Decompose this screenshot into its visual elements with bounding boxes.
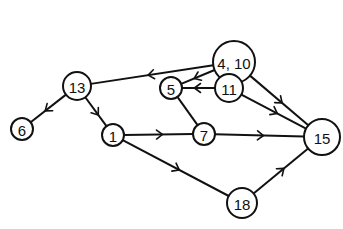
node-n7: 7 — [193, 123, 215, 145]
edge-n18-to-n15 — [254, 148, 309, 193]
edge-line — [91, 65, 213, 84]
edge-n1-to-n18 — [123, 140, 229, 196]
edge-n4_10-to-n15 — [250, 76, 308, 126]
edge-n4_10-to-n13 — [91, 65, 213, 84]
node-n18: 18 — [227, 188, 257, 218]
edge-line — [31, 95, 66, 123]
node-label: 5 — [167, 81, 175, 98]
node-label: 13 — [69, 79, 86, 96]
edge-n1-to-n7 — [124, 130, 193, 139]
edge-line — [241, 95, 306, 129]
node-n5: 5 — [160, 77, 182, 99]
node-label: 4, 10 — [217, 55, 250, 72]
node-n15: 15 — [304, 119, 340, 155]
edge-n13-to-n1 — [85, 97, 106, 126]
edge-n11-to-n5 — [182, 84, 215, 93]
edge-line — [215, 134, 304, 136]
edge-line — [123, 140, 229, 196]
node-label: 7 — [200, 127, 208, 144]
node-label: 1 — [109, 128, 117, 145]
edge-line — [250, 76, 308, 126]
edge-line — [177, 97, 197, 125]
node-n1: 1 — [102, 124, 124, 146]
edge-line — [124, 134, 193, 135]
edge-line — [85, 97, 106, 126]
edge-n7-to-n15 — [215, 131, 304, 140]
node-label: 15 — [314, 130, 331, 147]
edge-n5-to-n7 — [177, 97, 197, 125]
node-label: 11 — [221, 81, 237, 98]
edge-line — [254, 148, 309, 193]
node-label: 6 — [18, 122, 26, 139]
graph-canvas: 4, 10135116171518 — [0, 0, 343, 229]
node-n6: 6 — [11, 118, 33, 140]
node-label: 18 — [234, 196, 251, 213]
edge-n13-to-n6 — [31, 95, 66, 123]
edge-n4_10-to-n5 — [181, 70, 214, 84]
node-n11: 11 — [215, 74, 243, 102]
nodes-layer: 4, 10135116171518 — [11, 41, 340, 218]
node-n13: 13 — [63, 72, 91, 100]
edge-n11-to-n15 — [241, 95, 306, 129]
